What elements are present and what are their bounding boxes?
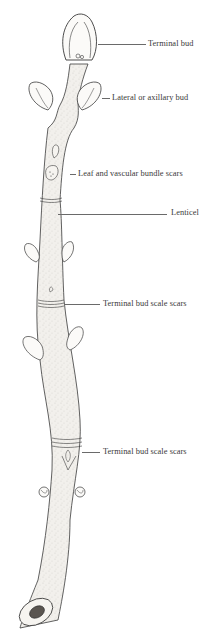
terminal-bud-drawing (63, 14, 97, 60)
leader-bud-scale-scars-1 (64, 304, 100, 305)
label-terminal-bud: Terminal bud (148, 39, 193, 49)
leader-leaf-scars (70, 174, 76, 175)
leader-lenticel (58, 214, 167, 215)
label-lateral-bud: Lateral or axillary bud (112, 93, 188, 103)
leader-terminal-bud (98, 44, 146, 45)
leader-bud-scale-scars-2 (82, 452, 100, 453)
label-bud-scale-scars-2: Terminal bud scale scars (103, 447, 187, 457)
label-lenticel: Lenticel (171, 208, 199, 218)
leader-lateral-bud (102, 98, 110, 99)
label-leaf-scars: Leaf and vascular bundle scars (78, 169, 183, 179)
label-bud-scale-scars-1: Terminal bud scale scars (103, 299, 187, 309)
